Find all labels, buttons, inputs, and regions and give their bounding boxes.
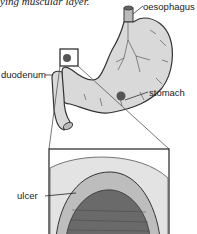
inset-cross-section — [45, 149, 169, 234]
ulcer-site-spot — [63, 54, 71, 62]
label-ulcer: ulcer — [17, 190, 38, 201]
label-oesophagus: oesophagus — [143, 1, 195, 12]
label-stomach: stomach — [149, 87, 185, 98]
label-duodenum: duodenum — [1, 69, 46, 80]
stomach-spot — [117, 92, 126, 101]
stomach-ulcer-diagram: ying muscular layer. — [0, 0, 197, 234]
